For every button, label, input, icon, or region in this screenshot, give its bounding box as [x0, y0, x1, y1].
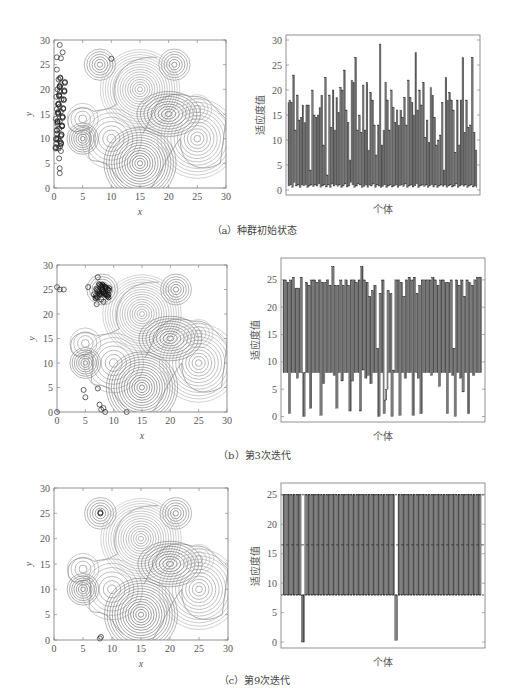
contour-plot-a: 051015202530051015202530xy [23, 35, 237, 218]
y-tick-label: 5 [272, 384, 277, 395]
y-tick-label: 5 [45, 158, 50, 169]
bars [288, 44, 477, 188]
population-point [60, 50, 65, 55]
population-point [57, 156, 62, 161]
y-tick-label: 10 [267, 578, 277, 589]
x-axis-label: 个体 [373, 657, 393, 668]
x-tick-label: 30 [221, 191, 231, 202]
y-tick-label: 0 [45, 183, 50, 194]
y-tick-label: 20 [43, 309, 53, 320]
y-tick-label: 5 [272, 607, 277, 618]
population-point [57, 42, 62, 47]
y-tick-label: 20 [40, 84, 50, 95]
y-tick-label: 0 [45, 635, 50, 646]
fitness-bar-chart-c: 0510152025个体适应度值 [249, 483, 485, 668]
x-tick-label: 5 [81, 643, 86, 654]
y-tick-label: 20 [272, 85, 282, 96]
y-axis-label: 适应度值 [249, 546, 261, 586]
y-tick-label: 30 [40, 483, 50, 494]
y-tick-label: 25 [40, 59, 50, 70]
y-tick-label: 25 [272, 60, 282, 71]
y-tick-label: 15 [272, 110, 282, 121]
fitness-bar-chart-a: 051015202530个体适应度值 [254, 35, 480, 216]
y-tick-label: 25 [40, 508, 50, 519]
x-tick-label: 25 [194, 643, 204, 654]
y-axis-label: y [23, 561, 34, 567]
y-tick-label: 5 [48, 382, 53, 393]
y-tick-label: 30 [40, 35, 50, 46]
y-axis-label: 适应度值 [249, 320, 261, 360]
y-tick-label: 20 [267, 519, 277, 530]
y-axis-label: y [26, 336, 37, 342]
x-tick-label: 10 [109, 415, 119, 426]
y-tick-label: 30 [43, 260, 53, 271]
bars [283, 495, 481, 642]
population-point [57, 171, 62, 176]
x-tick-label: 0 [52, 191, 57, 202]
x-tick-label: 15 [136, 643, 146, 654]
y-tick-label: 25 [267, 489, 277, 500]
x-tick-label: 15 [137, 415, 147, 426]
y-tick-label: 20 [40, 533, 50, 544]
population-point [54, 67, 59, 72]
x-tick-label: 0 [55, 415, 60, 426]
y-tick-label: 5 [277, 160, 282, 171]
population-point [57, 166, 62, 171]
y-tick-label: 0 [48, 407, 53, 418]
y-tick-label: 0 [272, 637, 277, 648]
y-tick-label: 30 [272, 35, 282, 46]
x-tick-label: 20 [164, 191, 174, 202]
y-tick-label: 15 [267, 548, 277, 559]
contour-plot-c: 051015202530051015202530xy [23, 483, 239, 670]
x-tick-label: 25 [192, 191, 202, 202]
x-tick-label: 10 [106, 191, 116, 202]
y-tick-label: 10 [267, 356, 277, 367]
x-tick-label: 5 [83, 415, 88, 426]
x-tick-label: 0 [52, 643, 57, 654]
x-tick-label: 10 [107, 643, 117, 654]
y-tick-label: 10 [43, 358, 53, 369]
population-point [98, 634, 103, 639]
x-axis-label: 个体 [373, 431, 393, 442]
x-tick-label: 20 [165, 643, 175, 654]
y-tick-label: 15 [40, 559, 50, 570]
fitness-bar-chart-b: 0510152025个体适应度值 [249, 258, 485, 442]
y-tick-label: 25 [43, 284, 53, 295]
x-tick-label: 20 [165, 415, 175, 426]
x-tick-label: 5 [80, 191, 85, 202]
x-axis-label: x [138, 658, 144, 669]
figure-canvas: 051015202530051015202530xy051015202530个体… [0, 0, 509, 688]
y-tick-label: 10 [272, 135, 282, 146]
contour-lines [67, 497, 239, 651]
bars [283, 266, 481, 416]
x-tick-label: 30 [223, 643, 233, 654]
y-tick-label: 15 [40, 109, 50, 120]
x-tick-label: 30 [222, 415, 232, 426]
contour-lines [67, 49, 237, 199]
y-tick-label: 20 [267, 302, 277, 313]
y-tick-label: 15 [43, 333, 53, 344]
y-tick-label: 25 [267, 274, 277, 285]
y-tick-label: 10 [40, 133, 50, 144]
y-axis-label: 适应度值 [254, 95, 266, 135]
x-tick-label: 25 [194, 415, 204, 426]
x-axis-label: 个体 [373, 204, 393, 215]
y-tick-label: 0 [272, 411, 277, 422]
x-axis-label: x [139, 430, 145, 441]
population-point [83, 395, 88, 400]
y-axis-label: y [23, 111, 34, 117]
y-tick-label: 0 [277, 185, 282, 196]
x-tick-label: 15 [135, 191, 145, 202]
population-point [81, 387, 86, 392]
contour-plot-b: 051015202530051015202530xy [26, 260, 238, 442]
y-tick-label: 5 [45, 609, 50, 620]
x-axis-label: x [137, 206, 143, 217]
y-tick-label: 10 [40, 584, 50, 595]
y-tick-label: 15 [267, 329, 277, 340]
